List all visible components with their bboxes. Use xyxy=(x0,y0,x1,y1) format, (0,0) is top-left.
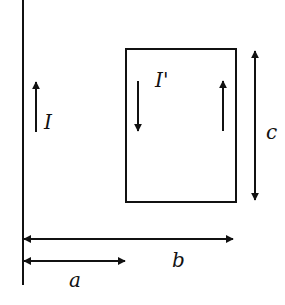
label-I-prime: I' xyxy=(155,70,168,90)
label-a: a xyxy=(69,270,81,290)
rectangular-loop xyxy=(126,49,236,202)
diagram-canvas: I I' c b a xyxy=(0,0,285,305)
label-I: I xyxy=(44,112,52,132)
label-b: b xyxy=(172,250,185,270)
diagram-svg xyxy=(0,0,285,305)
label-c: c xyxy=(266,122,277,142)
